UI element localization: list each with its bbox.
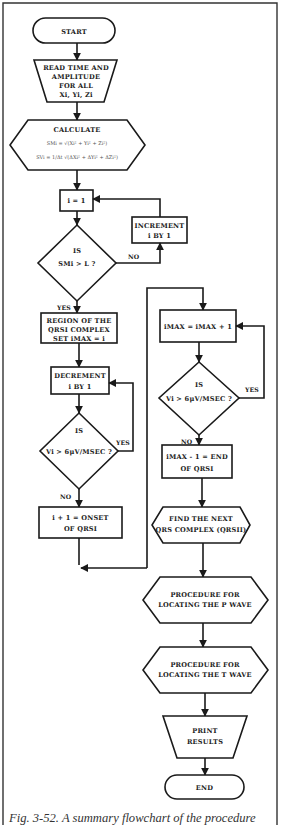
decision-v-left-line-2: Vi > 6μV/MSEC ? [45,448,112,456]
decrement-node: DECREMENT i BY 1 [51,367,109,394]
onset-line-2: OF QRSI [64,525,97,533]
print-line-1: PRINT [192,727,217,735]
find-next-line-2: QRS COMPLEX (QRSII) [156,526,247,534]
decision-v-left-node: IS Vi > 6μV/MSEC ? [40,413,118,489]
init-i-label: i = 1 [67,197,85,205]
calculate-node: CALCULATE SMi = √(Xi² + Yi² + Zi²) SVi =… [10,120,145,170]
read-line-2: AMPLITUDE [51,73,100,81]
p-wave-line-1: PROCEDURE FOR [170,591,240,599]
figure-caption: Fig. 3-52. A summary flowchart of the pr… [8,811,256,825]
end-qrs-line-1: iMAX - 1 = END [166,453,228,461]
calculate-title: CALCULATE [53,126,100,134]
edge-label-no-v-left: NO [60,493,72,500]
print-node: PRINT RESULTS [163,716,247,758]
decision-sm-line-2: SMi > L ? [58,260,95,268]
region-node: REGION OF THE QRSI COMPLEX SET iMAX = i [41,313,117,343]
increment-line-1: INCREMENT [135,222,185,230]
edge-label-yes-v-right: YES [244,386,259,393]
start-label: START [61,28,87,36]
end-qrs-node: iMAX - 1 = END OF QRSI [162,445,232,478]
edge-label-no-sm: NO [128,253,140,260]
onset-line-1: i + 1 = ONSET [52,514,108,522]
read-line-1: READ TIME AND [43,64,109,72]
decrement-line-1: DECREMENT [54,372,106,380]
find-next-line-1: FIND THE NEXT [169,515,233,523]
increment-node: INCREMENT i BY 1 [132,217,187,243]
p-wave-line-2: LOCATING THE P WAVE [158,601,252,609]
print-line-2: RESULTS [187,738,223,746]
decision-v-right-line-1: IS [195,381,203,389]
region-line-2: QRSI COMPLEX [48,326,110,334]
edge-label-yes-sm: YES [56,304,71,311]
region-line-1: REGION OF THE [47,317,112,325]
formula-sm: SMi = √(Xi² + Yi² + Zi²) [47,140,107,146]
edge-label-yes-v-left: YES [115,439,130,446]
t-wave-node: PROCEDURE FOR LOCATING THE T WAVE [143,647,268,693]
find-next-qrs-node: FIND THE NEXT QRS COMPLEX (QRSII) [152,507,250,543]
decision-sm-line-1: IS [73,247,81,255]
arrow-increment-to-init [93,199,160,217]
read-input-node: READ TIME AND AMPLITUDE FOR ALL Xi, Yi, … [34,60,117,102]
flowchart-canvas: START READ TIME AND AMPLITUDE FOR ALL Xi… [0,0,282,825]
imax-increment-label: iMAX = iMAX + 1 [164,323,232,331]
region-line-3: SET iMAX = i [53,335,105,343]
t-wave-line-1: PROCEDURE FOR [170,661,240,669]
end-qrs-line-2: OF QRSI [180,465,213,473]
increment-line-2: i BY 1 [148,232,171,240]
decision-v-left-line-1: IS [75,427,83,435]
read-line-4: Xi, Yi, Zi [59,91,93,99]
start-terminal: START [33,18,115,43]
decrement-line-2: i BY 1 [68,383,91,391]
edge-label-no-v-right: NO [181,438,193,445]
init-i-node: i = 1 [60,190,93,211]
end-terminal: END [165,775,244,799]
p-wave-node: PROCEDURE FOR LOCATING THE P WAVE [143,577,268,623]
decision-v-right-line-2: Vi > 6μV/MSEC ? [165,395,232,403]
onset-node: i + 1 = ONSET OF QRSI [39,507,122,538]
imax-increment-node: iMAX = iMAX + 1 [160,310,236,342]
formula-sv: SVi = 1/Δt √(ΔXi² + ΔYi² + ΔZi²) [36,154,118,160]
decision-sm-node: IS SMi > L ? [38,225,116,301]
end-label: END [196,784,213,792]
t-wave-line-2: LOCATING THE T WAVE [158,671,252,679]
read-line-3: FOR ALL [59,82,93,90]
decision-v-right-node: IS Vi > 6μV/MSEC ? [159,362,239,435]
